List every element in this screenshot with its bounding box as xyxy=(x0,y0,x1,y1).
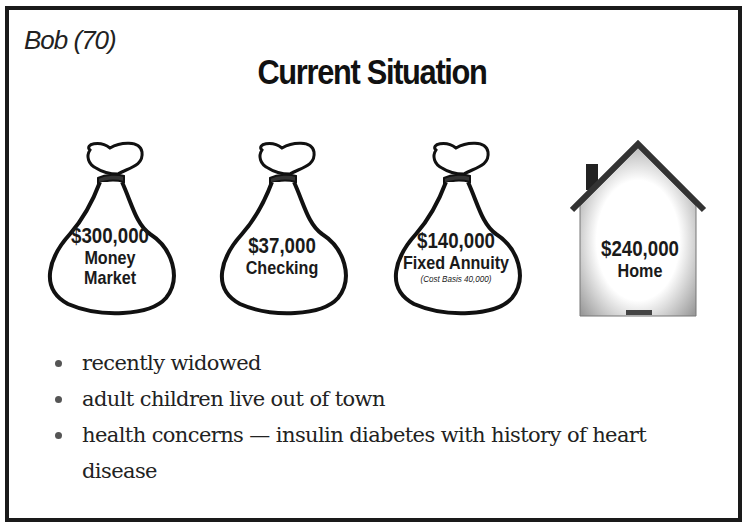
asset-amount: $300,000 xyxy=(51,225,170,247)
bullet-dot-icon xyxy=(55,360,62,367)
asset-amount: $240,000 xyxy=(581,238,700,260)
bullet-dot-icon xyxy=(55,396,62,403)
asset-amount: $37,000 xyxy=(223,235,342,257)
asset-type: Checking xyxy=(223,258,342,277)
asset-amount: $140,000 xyxy=(397,230,516,252)
asset-type-line2: Market xyxy=(51,268,170,287)
asset-checking: $37,000 Checking xyxy=(212,138,352,318)
asset-home: $240,000 Home xyxy=(570,140,710,322)
asset-fixed-annuity: $140,000 Fixed Annuity (Cost Basis 40,00… xyxy=(386,138,526,318)
situation-bullets: recently widowed adult children live out… xyxy=(48,345,662,489)
asset-type: Home xyxy=(581,261,700,280)
slide-title: Current Situation xyxy=(45,52,700,92)
asset-money-market: $300,000 Money Market xyxy=(40,138,180,318)
bullet-dot-icon xyxy=(55,432,62,439)
bullet-item: health concerns — insulin diabetes with … xyxy=(48,417,662,489)
bullet-item: recently widowed xyxy=(48,345,662,381)
asset-note: (Cost Basis 40,000) xyxy=(397,274,516,284)
asset-type: Fixed Annuity xyxy=(397,253,516,272)
money-bag-icon xyxy=(212,138,352,318)
house-icon xyxy=(570,140,710,322)
asset-type: Money xyxy=(51,248,170,267)
bullet-item: adult children live out of town xyxy=(48,381,662,417)
